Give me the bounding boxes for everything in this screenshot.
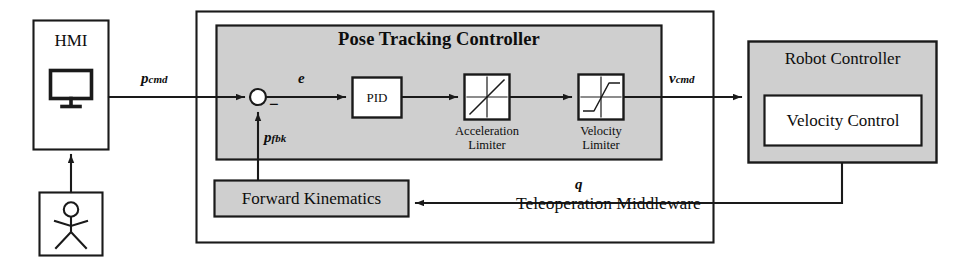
sum-junction-node <box>250 89 266 105</box>
forward-kinematics-box <box>215 181 409 217</box>
velocity-control-box <box>765 96 922 146</box>
diagram-vector-layer <box>0 0 963 264</box>
pid-box <box>353 78 402 118</box>
monitor-screen <box>51 71 92 99</box>
block-diagram-canvas: HMI Pose Tracking Controller PID Acceler… <box>0 0 963 264</box>
